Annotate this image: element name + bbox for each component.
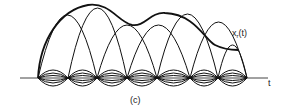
reconstruction-diagram: xr(t) t (c) [0, 0, 285, 110]
main-lobe [68, 8, 127, 78]
signal-label: xr(t) [232, 28, 247, 39]
figure-caption: (c) [130, 95, 141, 105]
axis-label-t: t [268, 78, 271, 88]
main-lobe [97, 25, 157, 78]
reconstructed-signal-envelope [38, 5, 238, 78]
main-lobe [38, 15, 97, 78]
sinc-lobes [38, 8, 247, 78]
